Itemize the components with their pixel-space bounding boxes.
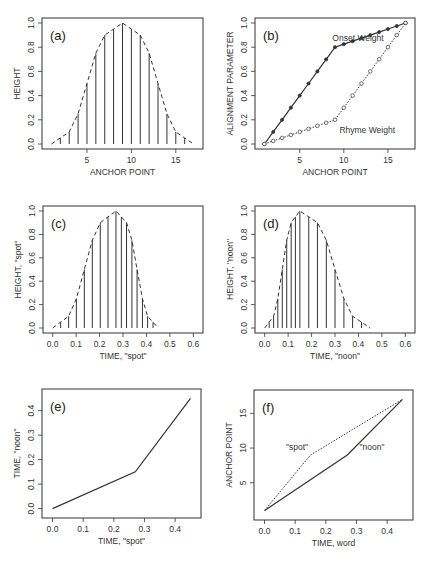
x-tick-label: 0.2 <box>320 526 332 536</box>
x-tick-label: 0.3 <box>139 524 151 534</box>
y-tick-label: 0.8 <box>27 228 37 240</box>
panel-label: (a) <box>50 28 66 43</box>
x-tick-label: 15 <box>383 155 393 165</box>
rhyme-marker <box>386 45 390 49</box>
onset-marker <box>280 118 283 121</box>
y-tick-label: 1.0 <box>27 205 37 217</box>
y-tick-label: 0.2 <box>239 114 249 126</box>
y-tick-label: 0.4 <box>26 89 36 101</box>
y-tick-label: 0.6 <box>26 65 36 77</box>
y-tick-label: 15 <box>238 408 248 418</box>
y-tick-label: 0.8 <box>26 41 36 53</box>
y-tick-label: 0.2 <box>26 453 36 465</box>
x-tick-label: 0.1 <box>70 339 82 349</box>
panel-d: 0.00.10.20.30.40.50.60.00.20.40.60.81.0T… <box>225 205 415 361</box>
rhyme-marker <box>263 142 267 146</box>
x-axis-label: ANCHOR POINT <box>90 167 155 177</box>
onset-marker <box>333 46 336 49</box>
y-tick-label: 0.1 <box>26 478 36 490</box>
y-tick-label: 1.0 <box>26 17 36 29</box>
y-tick-label: 0.3 <box>26 429 36 441</box>
y-tick-label: 0.6 <box>239 65 249 77</box>
x-tick-label: 0.6 <box>399 339 411 349</box>
panel-c: 0.00.10.20.30.40.50.60.00.20.40.60.81.0T… <box>13 205 203 361</box>
y-tick-label: 0.6 <box>239 252 249 264</box>
panel-f: 0.00.10.20.30.451015TIME, wordANCHOR POI… <box>224 390 413 548</box>
x-tick-label: 0.0 <box>259 339 271 349</box>
onset-marker <box>289 106 292 109</box>
rhyme-marker <box>377 58 381 62</box>
x-tick-label: 0.2 <box>94 339 106 349</box>
x-tick-label: 15 <box>171 155 181 165</box>
y-tick-label: 0.0 <box>27 322 37 334</box>
x-axis-label: ANCHOR POINT <box>302 167 367 177</box>
annotation-label: "spot" <box>286 442 308 452</box>
x-tick-label: 0.5 <box>164 339 176 349</box>
rhyme-marker <box>271 139 275 143</box>
x-axis-label: TIME, "noon" <box>310 351 360 361</box>
rhyme-marker <box>360 82 364 86</box>
y-tick-label: 10 <box>238 443 248 453</box>
figure-canvas: 510150.00.20.40.60.81.0ANCHOR POINTHEIGH… <box>0 0 429 562</box>
annotation-label: Onset Weight <box>332 33 384 43</box>
panel-b: 510150.00.20.40.60.81.0ANCHOR POINTALIGN… <box>225 17 415 177</box>
panel-label: (e) <box>50 399 66 414</box>
onset-marker <box>307 82 310 85</box>
x-tick-label: 0.4 <box>381 526 393 536</box>
x-tick-label: 0.0 <box>47 524 59 534</box>
x-tick-label: 0.4 <box>141 339 153 349</box>
y-tick-label: 0.0 <box>26 138 36 150</box>
rhyme-marker <box>307 127 311 131</box>
annotation-label: "noon" <box>360 442 385 452</box>
y-axis-label: HEIGHT, "spot" <box>13 241 23 299</box>
x-tick-label: 0.3 <box>351 526 363 536</box>
plot-frame <box>254 390 413 520</box>
rhyme-marker <box>404 21 408 25</box>
x-tick-label: 0.4 <box>169 524 181 534</box>
rhyme-marker <box>289 133 293 137</box>
onset-marker <box>298 94 301 97</box>
y-axis-label: HEIGHT, "noon" <box>225 239 235 300</box>
x-tick-label: 10 <box>339 155 349 165</box>
x-axis-label: TIME, "spot" <box>99 351 146 361</box>
x-tick-label: 5 <box>297 155 302 165</box>
y-tick-label: 0.0 <box>239 138 249 150</box>
series-line <box>53 398 191 508</box>
x-tick-label: 0.1 <box>282 339 294 349</box>
rhyme-marker <box>333 118 337 122</box>
x-tick-label: 0.0 <box>47 339 59 349</box>
onset-marker <box>316 70 319 73</box>
panel-e: 0.00.10.20.30.40.00.10.20.30.4TIME, "spo… <box>12 389 201 546</box>
y-axis-label: HEIGHT <box>12 67 22 99</box>
panel-label: (d) <box>263 216 279 231</box>
panel-label: (f) <box>262 400 274 415</box>
panel-label: (b) <box>263 28 279 43</box>
rhyme-marker <box>368 70 372 74</box>
y-tick-label: 0.0 <box>239 322 249 334</box>
x-tick-label: 0.4 <box>353 339 365 349</box>
onset-marker <box>386 27 389 30</box>
x-tick-label: 0.5 <box>376 339 388 349</box>
y-tick-label: 0.8 <box>239 228 249 240</box>
rhyme-marker <box>351 94 355 98</box>
y-axis-label: ANCHOR POINT <box>224 422 234 487</box>
x-tick-label: 5 <box>85 155 90 165</box>
y-tick-label: 0.4 <box>239 275 249 287</box>
x-tick-label: 0.2 <box>306 339 318 349</box>
y-axis-label: ALIGNMENT PARAMETER <box>225 31 235 135</box>
y-tick-label: 0.6 <box>27 252 37 264</box>
x-axis-label: TIME, "spot" <box>98 536 145 546</box>
y-tick-label: 0.4 <box>239 89 249 101</box>
y-tick-label: 0.0 <box>26 502 36 514</box>
panel-a: 510150.00.20.40.60.81.0ANCHOR POINTHEIGH… <box>12 17 203 177</box>
y-tick-label: 1.0 <box>239 205 249 217</box>
y-axis-label: TIME, "noon" <box>12 429 22 479</box>
y-tick-label: 0.2 <box>27 298 37 310</box>
onset-marker <box>272 130 275 133</box>
rhyme-marker <box>395 33 399 37</box>
rhyme-marker <box>280 136 284 140</box>
onset-marker <box>325 58 328 61</box>
rhyme-marker <box>342 106 346 110</box>
series-line <box>265 399 403 510</box>
annotation-label: Rhyme Weight <box>339 125 395 135</box>
